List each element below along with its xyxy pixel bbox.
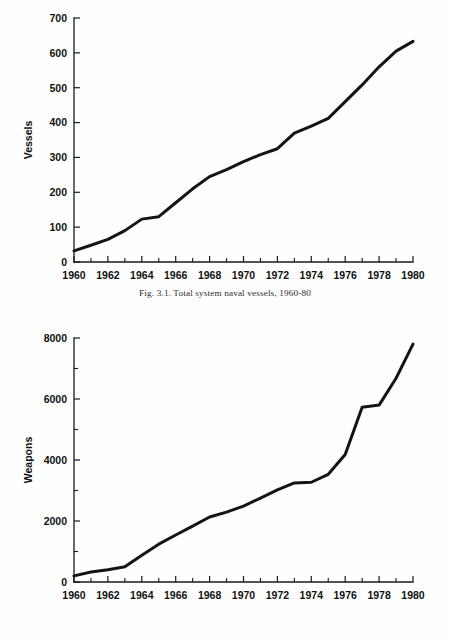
figure-naval-vessels: 0100200300400500600700196019621964196619… [0,0,450,320]
x-tick-label: 1962 [96,269,120,281]
figure-land-weapons: 0200040006000800019601962196419661968197… [0,320,450,640]
data-series-line [74,344,413,576]
x-tick-label: 1974 [300,269,324,281]
y-tick-label: 200 [49,186,67,198]
y-tick-label: 500 [49,82,67,94]
y-axis-title: Weapons [22,437,34,484]
data-series-line [74,41,413,251]
y-tick-label: 300 [49,151,67,163]
chart-land-weapons: 0200040006000800019601962196419661968197… [0,320,450,610]
x-tick-label: 1964 [130,589,154,601]
y-tick-label: 100 [49,221,67,233]
y-axis-title: Vessels [22,121,34,160]
x-tick-label: 1960 [62,269,86,281]
y-tick-label: 0 [61,576,67,588]
y-tick-label: 4000 [44,454,68,466]
x-tick-label: 1980 [401,269,425,281]
x-tick-label: 1966 [164,269,188,281]
x-tick-label: 1960 [62,589,86,601]
x-tick-label: 1974 [300,589,324,601]
x-tick-label: 1972 [266,589,290,601]
y-tick-label: 8000 [44,332,68,344]
x-tick-label: 1970 [232,269,256,281]
y-tick-label: 700 [49,12,67,24]
y-tick-label: 0 [61,256,67,268]
x-tick-label: 1976 [334,589,358,601]
x-tick-label: 1978 [367,269,391,281]
x-tick-label: 1980 [401,589,425,601]
x-tick-label: 1976 [334,269,358,281]
chart-naval-vessels: 0100200300400500600700196019621964196619… [0,0,450,290]
y-tick-label: 6000 [44,393,68,405]
x-tick-label: 1968 [198,589,222,601]
y-tick-label: 600 [49,47,67,59]
x-tick-label: 1978 [367,589,391,601]
x-tick-label: 1970 [232,589,256,601]
x-tick-label: 1962 [96,589,120,601]
y-tick-label: 2000 [44,515,68,527]
x-tick-label: 1966 [164,589,188,601]
x-tick-label: 1968 [198,269,222,281]
y-tick-label: 400 [49,116,67,128]
x-tick-label: 1972 [266,269,290,281]
book-page: 0100200300400500600700196019621964196619… [0,0,450,640]
figure-caption-1: Fig. 3.1. Total system naval vessels, 19… [0,288,450,298]
x-tick-label: 1964 [130,269,154,281]
